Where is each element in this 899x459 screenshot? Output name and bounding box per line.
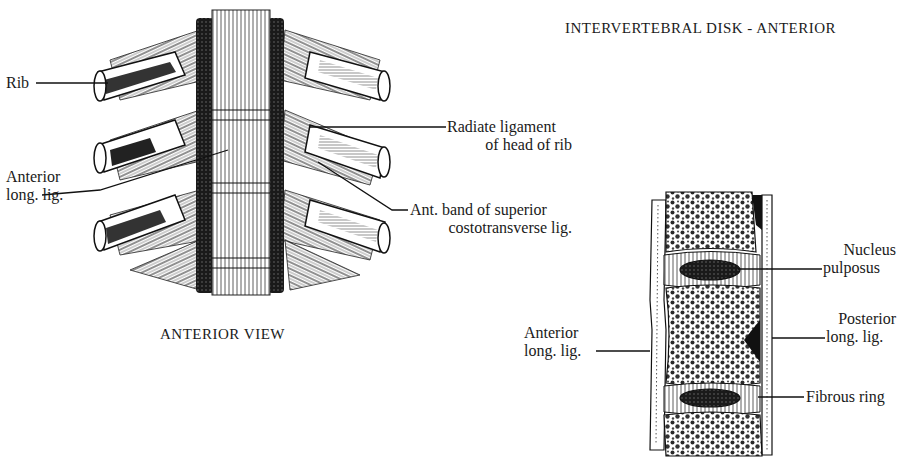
label-radiate-ligament-line2: of head of rib [447,136,572,154]
label-nucleus-line1: Nucleus [820,241,896,259]
label-fibrous-ring: Fibrous ring [806,388,885,406]
label-radiate-ligament-line1: Radiate ligament [447,118,556,136]
label-anterior-long-lig-1-line2: long. lig. [6,186,63,204]
label-ant-band-line2: costotransverse lig. [410,219,572,237]
label-rib: Rib [6,74,29,92]
anterior-view-drawing [36,10,446,295]
caption-anterior-view: ANTERIOR VIEW [160,326,285,343]
label-nucleus-line2: pulposus [823,259,880,277]
label-posterior-long-lig-line2: long. lig. [826,328,883,346]
label-posterior-long-lig-line1: Posterior [820,310,896,328]
label-anterior-long-lig-2-line2: long. lig. [524,342,581,360]
label-anterior-long-lig-1-line1: Anterior [6,168,60,186]
disk-section-drawing [596,192,825,456]
vertebral-column [196,10,284,295]
label-ant-band-line1: Ant. band of superior [410,201,547,219]
diagram-title: INTERVERTEBRAL DISK - ANTERIOR [565,20,836,37]
label-anterior-long-lig-2-line1: Anterior [524,324,578,342]
